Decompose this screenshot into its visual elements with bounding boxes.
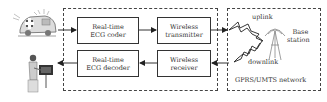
ambulance-icon [13, 9, 56, 36]
doctor-at-monitor-icon [28, 55, 53, 92]
connectors-layer [0, 0, 327, 102]
downlink-lightning-icon [234, 41, 262, 62]
uplink-lightning-icon [229, 22, 263, 41]
antenna-tower-icon [265, 29, 285, 60]
